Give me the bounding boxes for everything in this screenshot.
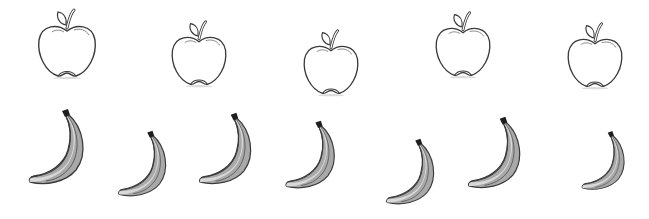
banana-icon xyxy=(190,110,260,186)
banana-icon xyxy=(382,130,438,212)
banana-icon xyxy=(274,118,346,190)
apple-icon xyxy=(168,18,230,90)
banana-icon xyxy=(114,122,170,204)
apple-icon xyxy=(300,27,362,99)
apple-icon xyxy=(432,9,494,81)
banana-icon xyxy=(24,106,88,186)
banana-icon xyxy=(460,114,528,190)
apple-icon xyxy=(36,6,98,82)
apple-icon xyxy=(564,20,626,92)
banana-icon xyxy=(578,120,628,200)
